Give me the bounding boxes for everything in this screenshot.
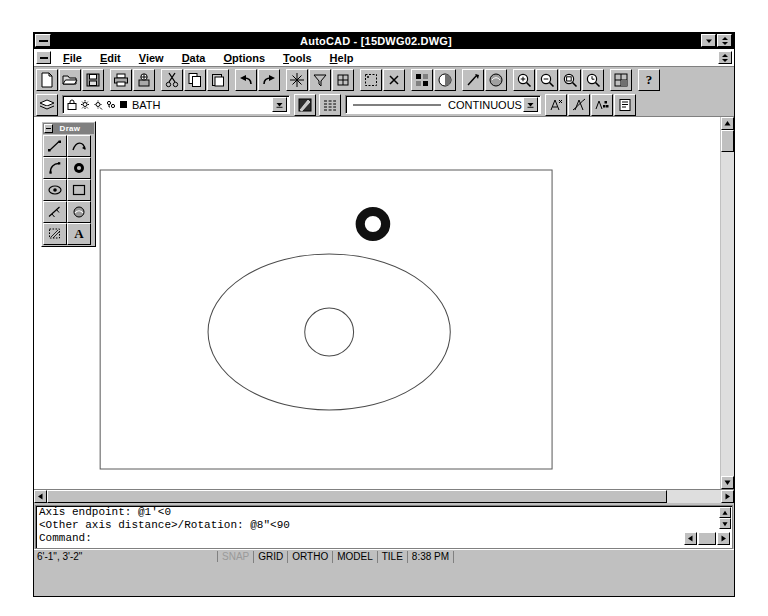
drawing-area-container: Draw: [34, 117, 734, 489]
freeze-sun-icon: [80, 99, 90, 110]
toolbar-group-clipboard: [161, 69, 230, 91]
minimize-button[interactable]: [701, 34, 716, 47]
status-clock[interactable]: 8:38 PM: [408, 551, 454, 563]
print-preview-button[interactable]: [133, 69, 155, 91]
zoom-previous-button[interactable]: [582, 69, 604, 91]
menu-view[interactable]: View: [130, 52, 173, 64]
toolbar-group-print: [110, 69, 156, 91]
zoom-window-button[interactable]: [559, 69, 581, 91]
menu-edit[interactable]: Edit: [91, 52, 130, 64]
text-tool[interactable]: A: [67, 223, 91, 245]
new-file-button[interactable]: [36, 69, 58, 91]
vertical-scroll-thumb[interactable]: [721, 130, 734, 152]
redo-button[interactable]: [258, 69, 280, 91]
arc-tool[interactable]: [43, 157, 67, 179]
command-scroll-up-button[interactable]: [719, 507, 731, 518]
external-ref-button[interactable]: [485, 69, 507, 91]
command-window[interactable]: Axis endpoint: @1'<0 <Other axis distanc…: [35, 505, 733, 549]
zoom-in-button[interactable]: [513, 69, 535, 91]
rectangle-tool[interactable]: [67, 179, 91, 201]
render-button[interactable]: [411, 69, 433, 91]
zoom-out-button[interactable]: [536, 69, 558, 91]
named-ucs-button[interactable]: [360, 69, 382, 91]
print-button[interactable]: [110, 69, 132, 91]
command-scroll-down-button[interactable]: [719, 518, 731, 529]
title-bar: AutoCAD - [15DWG02.DWG]: [34, 33, 734, 49]
save-file-button[interactable]: [82, 69, 104, 91]
object-linetype-button[interactable]: [319, 94, 341, 116]
document-restore-button[interactable]: [718, 51, 732, 64]
menu-tools[interactable]: Tools: [274, 52, 321, 64]
polyline-tool[interactable]: [67, 135, 91, 157]
line-tool[interactable]: [43, 135, 67, 157]
polygon-tool[interactable]: [67, 201, 91, 223]
linetype-combobox[interactable]: CONTINUOUS: [345, 95, 541, 114]
object-snap-button[interactable]: [286, 69, 308, 91]
object-color-button[interactable]: [294, 94, 316, 116]
command-vscroll[interactable]: [719, 507, 731, 529]
attribute-button[interactable]: [462, 69, 484, 91]
status-bar: 6'-1", 3'-2" SNAP GRID ORTHO MODEL TILE …: [34, 549, 734, 563]
thaw-icon: [106, 99, 116, 110]
help-button[interactable]: ?: [638, 69, 660, 91]
scroll-down-button[interactable]: [721, 476, 734, 489]
status-tile[interactable]: TILE: [378, 551, 408, 563]
vertical-scrollbar[interactable]: [720, 117, 734, 489]
status-snap[interactable]: SNAP: [218, 551, 254, 563]
menu-view-label: iew: [146, 52, 164, 64]
horizontal-scroll-track[interactable]: [47, 490, 721, 503]
command-scroll-left-button[interactable]: [684, 532, 697, 545]
layer-state-icons: [67, 99, 128, 110]
layer-combobox[interactable]: BATH: [62, 95, 290, 114]
layer-properties-button[interactable]: [36, 94, 58, 116]
ucs-button[interactable]: [332, 69, 354, 91]
document-system-menu-button[interactable]: [36, 51, 51, 64]
menu-data[interactable]: Data: [173, 52, 215, 64]
shade-button[interactable]: [434, 69, 456, 91]
horizontal-scroll-thumb[interactable]: [47, 490, 667, 503]
scroll-left-button[interactable]: [34, 490, 47, 503]
command-scroll-right-button[interactable]: [717, 532, 730, 545]
menu-options[interactable]: Options: [215, 52, 275, 64]
toolbar-group-misc: [462, 69, 508, 91]
menu-file[interactable]: File: [54, 52, 91, 64]
scroll-up-button[interactable]: [721, 117, 734, 130]
status-grid[interactable]: GRID: [254, 551, 288, 563]
system-menu-button[interactable]: [35, 34, 51, 47]
draw-toolbar-close-button[interactable]: [44, 124, 53, 133]
scroll-right-button[interactable]: [721, 490, 734, 503]
circle-tool[interactable]: [67, 157, 91, 179]
menu-help[interactable]: Help: [321, 52, 363, 64]
maximize-restore-button[interactable]: [717, 34, 732, 47]
spline-tool[interactable]: [43, 201, 67, 223]
status-ortho[interactable]: ORTHO: [288, 551, 333, 563]
open-file-button[interactable]: [59, 69, 81, 91]
draw-toolbar-title-bar[interactable]: Draw: [43, 123, 94, 134]
hatch-tool[interactable]: [43, 223, 67, 245]
cut-button[interactable]: [161, 69, 183, 91]
coordinate-display[interactable]: 6'-1", 3'-2": [34, 551, 218, 562]
filters-button[interactable]: [309, 69, 331, 91]
aerial-view-button[interactable]: [610, 69, 632, 91]
linetype-dropdown-arrow[interactable]: [523, 97, 538, 112]
paste-button[interactable]: [207, 69, 229, 91]
ellipse-tool[interactable]: [43, 179, 67, 201]
copy-button[interactable]: [184, 69, 206, 91]
vertical-scroll-track[interactable]: [721, 130, 734, 476]
menu-data-label: ata: [190, 52, 206, 64]
undo-button[interactable]: [235, 69, 257, 91]
command-scroll-track[interactable]: [698, 532, 716, 545]
horizontal-scrollbar[interactable]: [34, 489, 734, 503]
point-filters-button[interactable]: [383, 69, 405, 91]
status-model[interactable]: MODEL: [333, 551, 378, 563]
command-prompt-line[interactable]: Command:: [36, 532, 684, 545]
text-style-button[interactable]: [591, 94, 613, 116]
drawing-border-rectangle: [100, 170, 552, 469]
toolbar-group-file: [36, 69, 105, 91]
properties-button[interactable]: [614, 94, 636, 116]
edit-text-button[interactable]: [568, 94, 590, 116]
multiline-text-button[interactable]: [545, 94, 567, 116]
draw-toolbar: Draw: [41, 121, 96, 247]
drawing-canvas[interactable]: Draw: [34, 117, 720, 489]
layer-dropdown-arrow[interactable]: [272, 97, 287, 112]
